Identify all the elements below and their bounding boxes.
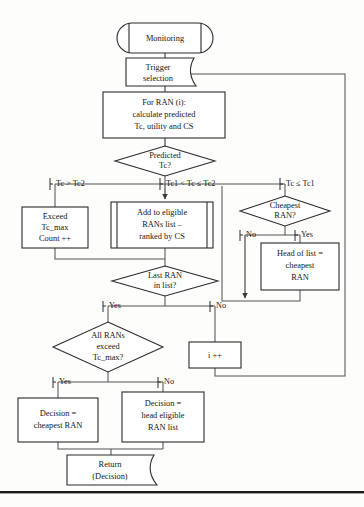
flowchart-canvas: Monitoring Trigger selection For RAN (i)… xyxy=(0,0,364,507)
edge-label-all-rans-no: No xyxy=(164,377,174,386)
node-all-rans-line1: All RANs xyxy=(91,331,125,340)
node-return[interactable]: Return (Decision) xyxy=(67,455,157,485)
node-for-ran-line2: calculate predicted xyxy=(132,110,196,119)
node-predicted-tc-line1: Predicted xyxy=(149,151,181,160)
node-add-eligible-line1: Add to eligible xyxy=(137,208,188,217)
edge-headoflist-merge xyxy=(245,290,300,301)
flowchart-figure: Monitoring Trigger selection For RAN (i)… xyxy=(0,0,364,507)
node-exceed-tcmax[interactable]: Exceed Tc_max Count ++ xyxy=(22,207,88,248)
node-cheapest-ran[interactable]: Cheapest RAN? xyxy=(240,196,330,226)
bottom-divider xyxy=(0,491,364,493)
node-exceed-line1: Exceed xyxy=(43,212,68,221)
node-trigger-line2: selection xyxy=(143,74,174,83)
edge-label-last-ran-no: No xyxy=(216,301,226,310)
edge-label-tc-gt-tc2: Tc > Tc2 xyxy=(56,179,85,188)
node-predicted-tc[interactable]: Predicted Tc? xyxy=(115,146,215,176)
node-return-line2: (Decision) xyxy=(92,472,128,481)
node-monitoring[interactable]: Monitoring xyxy=(117,23,213,53)
node-for-ran-line3: Tc, utility and CS xyxy=(135,122,194,131)
node-add-eligible-line3: ranked by CS xyxy=(139,232,185,241)
node-cheapest-ran-line2: RAN? xyxy=(274,211,296,220)
node-decision-cheapest-line2: cheapest RAN xyxy=(34,421,83,430)
node-trigger-line1: Trigger xyxy=(146,63,171,72)
node-monitoring-label: Monitoring xyxy=(146,34,185,43)
node-all-rans[interactable]: All RANs exceed Tc_max? xyxy=(53,322,163,372)
node-decision-cheapest[interactable]: Decision = cheapest RAN xyxy=(18,398,98,442)
edge-decisioncheapest-return xyxy=(58,442,163,449)
node-last-ran-line1: Last RAN xyxy=(148,271,182,280)
node-last-ran-line2: in list? xyxy=(154,281,177,290)
node-head-of-list[interactable]: Head of list = cheapest RAN xyxy=(261,243,339,290)
edge-merge-to-lastran xyxy=(222,190,245,301)
edge-label-last-ran-yes: Yes xyxy=(109,301,121,310)
node-add-eligible[interactable]: Add to eligible RANs list – ranked by CS xyxy=(111,202,213,248)
node-add-eligible-line2: RANs list – xyxy=(142,220,182,229)
edge-label-tc-le-tc1: Tc ≤ Tc1 xyxy=(286,179,315,188)
node-decision-cheapest-line1: Decision = xyxy=(40,409,77,418)
node-head-of-list-line3: RAN xyxy=(291,273,309,282)
node-decision-head-line3: RAN list xyxy=(148,423,179,432)
edge-label-tc1-lt-tc-le-tc2: Tc1 < Tc ≤ Tc2 xyxy=(166,179,215,188)
node-predicted-tc-line2: Tc? xyxy=(159,161,171,170)
node-decision-head-line1: Decision = xyxy=(145,399,182,408)
node-increment[interactable]: i ++ xyxy=(189,342,241,368)
node-for-ran-line1: For RAN (i): xyxy=(142,98,186,107)
node-trigger-selection[interactable]: Trigger selection xyxy=(126,58,196,86)
edge-label-all-rans-yes: Yes xyxy=(59,377,71,386)
edge-label-cheapest-yes: Yes xyxy=(301,230,313,239)
node-all-rans-line2: exceed xyxy=(96,342,120,351)
node-cheapest-ran-line1: Cheapest xyxy=(270,201,301,210)
node-return-line1: Return xyxy=(99,460,123,469)
node-all-rans-line3: Tc_max? xyxy=(93,353,124,362)
node-last-ran[interactable]: Last RAN in list? xyxy=(112,266,218,296)
node-exceed-line3: Count ++ xyxy=(39,234,71,243)
node-for-ran[interactable]: For RAN (i): calculate predicted Tc, uti… xyxy=(103,92,225,138)
node-exceed-line2: Tc_max xyxy=(42,223,70,232)
node-decision-head[interactable]: Decision = head eligible RAN list xyxy=(122,392,204,442)
node-head-of-list-line2: cheapest xyxy=(286,261,316,270)
edge-exceed-lastran xyxy=(55,248,165,259)
edge-label-cheapest-no: No xyxy=(246,230,256,239)
node-head-of-list-line1: Head of list = xyxy=(277,249,323,258)
node-decision-head-line2: head eligible xyxy=(141,411,184,420)
node-increment-label: i ++ xyxy=(208,351,222,360)
